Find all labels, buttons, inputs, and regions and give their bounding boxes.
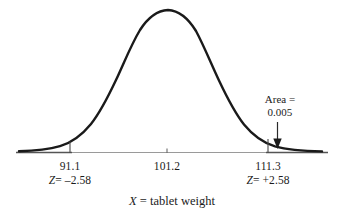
axis-value-center: 101.2 [154,160,180,172]
x-axis-caption: X = tablet weight [129,195,215,208]
area-annotation: Area = 0.005 [265,93,295,120]
axis-value-right: 111.3 [246,160,289,172]
normal-distribution-figure: Area = 0.005 91.1 Z= –2.58 101.2 111.3 Z… [0,0,341,219]
area-annotation-label: Area = [265,93,295,106]
axis-value-left: 91.1 [49,160,91,172]
z-value-left: Z= –2.58 [49,174,91,186]
z-value-right: Z= +2.58 [246,174,289,186]
axis-label-right: 111.3 Z= +2.58 [246,160,289,186]
bell-curve [19,10,322,151]
z-text-left: = –2.58 [55,174,91,186]
axis-label-center: 101.2 [154,160,180,172]
x-axis-caption-symbol: X [129,194,137,208]
x-axis-caption-text: = tablet weight [140,194,215,208]
z-text-right: = +2.58 [253,174,290,186]
area-annotation-value: 0.005 [265,106,295,119]
axis-label-left: 91.1 Z= –2.58 [49,160,91,186]
area-arrow-icon [273,122,281,149]
